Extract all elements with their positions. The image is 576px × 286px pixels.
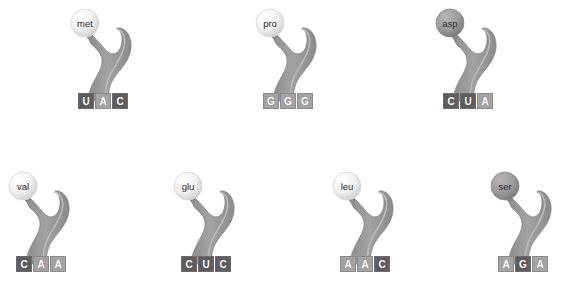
amino-acid-circle (333, 172, 361, 200)
anticodon-base-box: A (498, 256, 514, 272)
anticodon-base-box: U (78, 93, 94, 109)
anticodon-row: AAC (340, 256, 390, 272)
anticodon-base-box: G (297, 93, 313, 109)
trna-molecule-asp: aspCUA (425, 5, 545, 125)
amino-acid-circle (9, 172, 37, 200)
anticodon-base-box: C (215, 256, 231, 272)
anticodon-row: CUC (181, 256, 231, 272)
amino-acid-circle (491, 172, 519, 200)
anticodon-base-box: G (263, 93, 279, 109)
anticodon-base-box: C (374, 256, 390, 272)
anticodon-base-box: A (95, 93, 111, 109)
anticodon-base-box: A (477, 93, 493, 109)
anticodon-base-box: A (532, 256, 548, 272)
anticodon-base-box: A (340, 256, 356, 272)
anticodon-base-box: A (33, 256, 49, 272)
anticodon-base-box: G (280, 93, 296, 109)
anticodon-base-box: U (198, 256, 214, 272)
trna-molecule-met: metUAC (60, 5, 180, 125)
trna-molecule-ser: serAGA (480, 168, 576, 286)
anticodon-base-box: C (181, 256, 197, 272)
anticodon-base-box: A (357, 256, 373, 272)
anticodon-base-box: C (443, 93, 459, 109)
anticodon-row: AGA (498, 256, 548, 272)
anticodon-base-box: A (50, 256, 66, 272)
anticodon-row: GGG (263, 93, 313, 109)
amino-acid-circle (436, 9, 464, 37)
anticodon-base-box: U (460, 93, 476, 109)
trna-diagram: metUACproGGGaspCUAvalCAAgluCUCleuAACserA… (0, 0, 576, 286)
anticodon-row: CAA (16, 256, 66, 272)
amino-acid-circle (71, 9, 99, 37)
amino-acid-circle (256, 9, 284, 37)
trna-molecule-pro: proGGG (245, 5, 365, 125)
trna-molecule-leu: leuAAC (322, 168, 442, 286)
anticodon-base-box: C (16, 256, 32, 272)
anticodon-row: UAC (78, 93, 128, 109)
anticodon-base-box: C (112, 93, 128, 109)
amino-acid-circle (174, 172, 202, 200)
anticodon-row: CUA (443, 93, 493, 109)
anticodon-base-box: G (515, 256, 531, 272)
trna-molecule-val: valCAA (0, 168, 118, 286)
trna-molecule-glu: gluCUC (163, 168, 283, 286)
